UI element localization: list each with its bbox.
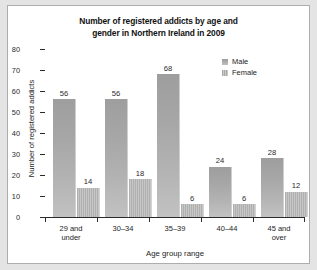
x-category-label-29-and-under: 29 and under — [45, 224, 97, 242]
y-tick-label-30: 30 — [0, 151, 20, 158]
bar-male-45-and-over[interactable]: 28 — [261, 158, 284, 217]
bar-male-35-39[interactable]: 68 — [157, 74, 180, 217]
x-category-line-1-1: 30–34 — [113, 224, 134, 233]
legend-item-male[interactable]: Male — [222, 57, 257, 68]
bar-value-female-30-34: 18 — [136, 170, 144, 178]
bar-group-30-34: 56 18 — [102, 49, 153, 217]
chart-title-line-1: Number of registered addicts by age and — [8, 16, 309, 28]
x-category-line-2-0: under — [61, 233, 80, 242]
bar-male-30-34[interactable]: 56 — [105, 99, 128, 217]
chart-legend: Male Female — [222, 57, 257, 78]
y-tick-label-70: 70 — [0, 67, 20, 74]
bar-value-male-35-39: 68 — [164, 65, 172, 73]
x-tick-2 — [149, 218, 150, 222]
y-tick-label-60: 60 — [0, 88, 20, 95]
x-category-label-35-39: 35–39 — [149, 224, 201, 233]
y-tick-label-50: 50 — [0, 109, 20, 116]
bar-female-45-and-over[interactable]: 12 — [285, 192, 308, 217]
bar-value-female-35-39: 6 — [190, 195, 194, 203]
x-tick-5 — [304, 218, 305, 222]
bar-group-35-39: 68 6 — [154, 49, 205, 217]
bar-value-male-29-and-under: 56 — [60, 90, 68, 98]
x-category-line-1-2: 35–39 — [165, 224, 186, 233]
y-tick-label-80: 80 — [0, 46, 20, 53]
legend-swatch-male-icon — [222, 59, 228, 65]
legend-item-female[interactable]: Female — [222, 68, 257, 79]
y-axis-title: Number of registered addicts — [27, 59, 36, 199]
bar-value-male-30-34: 56 — [112, 90, 120, 98]
x-axis-line — [45, 217, 305, 218]
bar-value-male-45-and-over: 28 — [268, 149, 276, 157]
bar-group-45-and-over: 28 12 — [258, 49, 309, 217]
chart-title: Number of registered addicts by age and … — [8, 16, 309, 39]
legend-swatch-female-icon — [222, 70, 228, 76]
bar-value-female-40-44: 6 — [242, 195, 246, 203]
bar-value-female-29-and-under: 14 — [84, 178, 92, 186]
bar-male-29-and-under[interactable]: 56 — [53, 99, 76, 217]
x-axis-title: Age group range — [45, 249, 305, 258]
bar-female-30-34[interactable]: 18 — [129, 179, 152, 217]
y-tick-label-40: 40 — [0, 130, 20, 137]
chart-title-line-2: gender in Northern Ireland in 2009 — [8, 28, 309, 40]
chart-page: Number of registered addicts by age and … — [0, 0, 317, 270]
bar-female-35-39[interactable]: 6 — [181, 204, 204, 217]
bar-group-29-and-under: 56 14 — [50, 49, 101, 217]
bar-male-40-44[interactable]: 24 — [209, 167, 232, 217]
x-tick-0 — [45, 218, 46, 222]
x-category-label-45-and-over: 45 and over — [253, 224, 305, 242]
x-category-line-1-0: 29 and — [60, 224, 83, 233]
x-category-label-40-44: 40–44 — [201, 224, 253, 233]
x-tick-1 — [97, 218, 98, 222]
bar-value-male-40-44: 24 — [216, 157, 224, 165]
x-category-line-1-3: 40–44 — [217, 224, 238, 233]
y-tick-label-0: 0 — [0, 214, 20, 221]
x-tick-4 — [253, 218, 254, 222]
chart-panel: Number of registered addicts by age and … — [7, 5, 310, 264]
bar-female-40-44[interactable]: 6 — [233, 204, 256, 217]
plot-area: 56 14 56 18 68 6 — [45, 49, 304, 217]
bar-female-29-and-under[interactable]: 14 — [77, 188, 100, 217]
y-tick-label-10: 10 — [0, 193, 20, 200]
x-category-line-1-4: 45 and — [268, 224, 291, 233]
x-category-label-30-34: 30–34 — [97, 224, 149, 233]
legend-label-male: Male — [232, 57, 248, 68]
legend-label-female: Female — [232, 68, 257, 79]
x-category-line-2-4: over — [272, 233, 287, 242]
y-tick-label-20: 20 — [0, 172, 20, 179]
x-tick-3 — [201, 218, 202, 222]
bar-value-female-45-and-over: 12 — [292, 182, 300, 190]
